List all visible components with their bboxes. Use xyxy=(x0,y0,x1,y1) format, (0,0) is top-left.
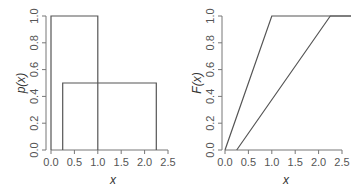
x-tick-label: 2.5 xyxy=(160,156,175,168)
right-panel: 0.0 0.2 0.4 0.6 0.8 1.0 F(x) 0.0 0.5 1.0… xyxy=(190,8,351,187)
x-tick-label: 2.0 xyxy=(311,156,326,168)
x-tick-label: 1.5 xyxy=(288,156,303,168)
y-tick-label: 0.4 xyxy=(28,89,40,104)
y-tick-label: 0.4 xyxy=(204,89,216,104)
y-tick-label: 0.6 xyxy=(204,62,216,77)
right-x-axis-title: x xyxy=(282,173,290,187)
right-y-ticks xyxy=(218,16,222,150)
x-tick-label: 2.5 xyxy=(334,156,349,168)
left-y-axis-title: p(x) xyxy=(14,73,28,95)
left-y-ticks xyxy=(42,16,46,150)
left-x-axis-title: x xyxy=(109,173,117,187)
y-tick-label: 0.6 xyxy=(28,62,40,77)
y-tick-label: 0.0 xyxy=(204,142,216,157)
x-tick-label: 1.0 xyxy=(90,156,105,168)
x-tick-label: 0.5 xyxy=(241,156,256,168)
x-tick-label: 1.0 xyxy=(264,156,279,168)
right-y-tick-labels: 0.0 0.2 0.4 0.6 0.8 1.0 xyxy=(204,8,216,157)
y-tick-label: 0.8 xyxy=(28,35,40,50)
y-tick-label: 1.0 xyxy=(28,8,40,23)
right-y-axis-title: F(x) xyxy=(190,72,204,93)
figure: 0.0 0.2 0.4 0.6 0.8 1.0 p(x) 0.0 0.5 1.0… xyxy=(0,0,362,192)
x-tick-label: 0.0 xyxy=(217,156,232,168)
y-tick-label: 0.2 xyxy=(28,116,40,131)
cdf-uniform-0-1 xyxy=(225,16,351,150)
x-tick-label: 1.5 xyxy=(114,156,129,168)
right-x-ticks xyxy=(225,150,342,154)
right-x-tick-labels: 0.0 0.5 1.0 1.5 2.0 2.5 xyxy=(217,156,349,168)
left-panel: 0.0 0.2 0.4 0.6 0.8 1.0 p(x) 0.0 0.5 1.0… xyxy=(14,8,176,187)
y-tick-label: 0.2 xyxy=(204,116,216,131)
left-x-tick-labels: 0.0 0.5 1.0 1.5 2.0 2.5 xyxy=(43,156,175,168)
left-y-tick-labels: 0.0 0.2 0.4 0.6 0.8 1.0 xyxy=(28,8,40,157)
y-tick-label: 0.8 xyxy=(204,35,216,50)
y-tick-label: 0.0 xyxy=(28,142,40,157)
x-tick-label: 0.0 xyxy=(43,156,58,168)
density-uniform-025-225 xyxy=(63,83,157,150)
y-tick-label: 1.0 xyxy=(204,8,216,23)
left-x-ticks xyxy=(51,150,168,154)
x-tick-label: 2.0 xyxy=(137,156,152,168)
x-tick-label: 0.5 xyxy=(67,156,82,168)
cdf-uniform-025-225 xyxy=(237,16,351,150)
